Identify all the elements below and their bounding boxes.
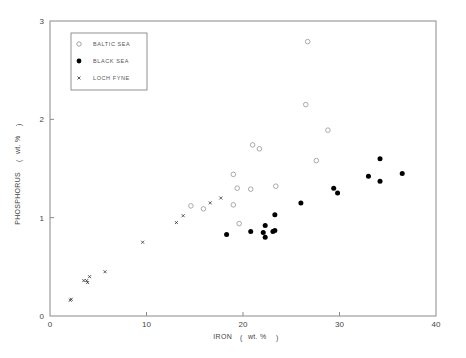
data-point (400, 171, 405, 176)
data-point (201, 207, 206, 212)
x-tick-label: 40 (432, 320, 441, 329)
data-point (189, 204, 194, 209)
data-point (298, 200, 303, 205)
x-tick-label: 10 (142, 320, 151, 329)
x-axis-label: IRON ( wt. % ) (213, 333, 278, 342)
x-axis-paren-close: ) (276, 334, 279, 342)
x-axis-unit: wt. % (247, 333, 267, 340)
data-point (224, 232, 229, 237)
data-point (250, 143, 255, 148)
data-point (248, 187, 253, 192)
data-point (305, 39, 310, 44)
data-point (274, 184, 279, 189)
x-tick-label: 0 (48, 320, 53, 329)
data-point (272, 212, 277, 217)
data-point (257, 147, 262, 152)
series-loch-fyne (69, 197, 223, 302)
y-axis-label: PHOSPHORUS ( wt. % ) (14, 123, 23, 224)
data-point (175, 221, 178, 224)
data-point (314, 158, 319, 163)
x-tick-label: 30 (335, 320, 344, 329)
x-axis-ticks: 010203040 (48, 312, 441, 329)
data-point (335, 191, 340, 196)
series-baltic-sea (189, 39, 331, 226)
y-axis-title: PHOSPHORUS (14, 172, 21, 225)
x-axis-title: IRON (213, 333, 232, 340)
x-axis-paren-open: ( (240, 334, 243, 342)
data-point (141, 241, 144, 244)
data-point (219, 197, 222, 200)
data-point (366, 174, 371, 179)
y-axis-paren-close: ) (15, 123, 23, 126)
legend: BALTIC SEA BLACK SEA LOCH FYNE (71, 33, 147, 90)
data-point (248, 229, 253, 234)
data-point (69, 299, 72, 302)
legend-label: LOCH FYNE (93, 75, 130, 81)
data-point (326, 128, 331, 133)
x-tick-label: 20 (239, 320, 248, 329)
legend-label: BALTIC SEA (93, 41, 130, 47)
data-point (331, 186, 336, 191)
y-axis-paren-open: ( (15, 159, 23, 162)
data-point (209, 201, 212, 204)
data-point (378, 179, 383, 184)
data-point (104, 270, 107, 273)
data-point (82, 279, 85, 282)
scatter-chart: 010203040 0123 IRON ( wt. % ) PHOSPHORUS… (0, 0, 466, 358)
data-point (182, 214, 185, 217)
data-point (263, 223, 268, 228)
filled-circle-icon (77, 59, 82, 64)
data-point (272, 228, 277, 233)
data-point (378, 156, 383, 161)
data-point (235, 186, 240, 191)
data-point (88, 275, 91, 278)
y-axis-ticks: 0123 (40, 17, 54, 321)
data-point (261, 230, 266, 235)
legend-label: BLACK SEA (93, 58, 129, 64)
y-tick-label: 1 (40, 214, 45, 223)
series-black-sea (224, 156, 405, 240)
data-point (303, 102, 308, 107)
y-tick-label: 2 (40, 115, 45, 124)
y-tick-label: 3 (40, 17, 45, 26)
y-axis-unit: wt. % (14, 135, 21, 155)
data-point (263, 235, 268, 240)
y-tick-label: 0 (40, 312, 45, 321)
data-point (231, 172, 236, 177)
data-point (231, 203, 236, 208)
data-point (237, 221, 242, 226)
